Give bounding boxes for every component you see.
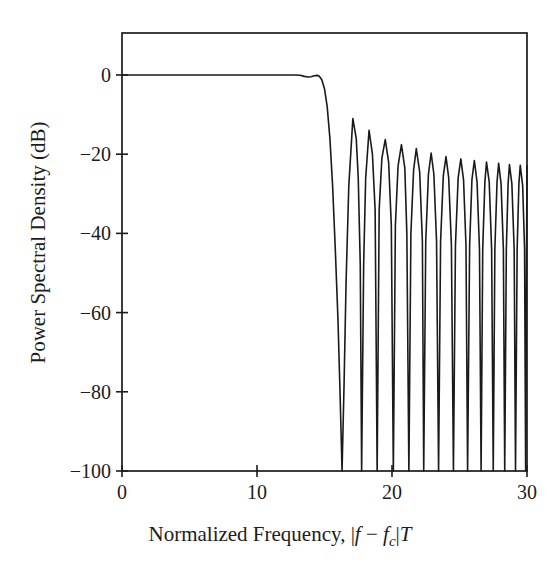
psd-figure: 0−20−40−60−80−100 0102030 Normalized Fre… (0, 0, 560, 566)
x-tick-label: 30 (517, 482, 537, 502)
x-axis-var-fc-subscript: c (389, 533, 396, 549)
data-series-group (122, 75, 527, 471)
y-tick-label: −20 (80, 144, 111, 164)
y-tick-label: −40 (80, 223, 111, 243)
x-tick-label: 10 (247, 482, 267, 502)
x-axis-title-text: Normalized Frequency, (148, 522, 350, 546)
x-tick-label: 0 (117, 482, 127, 502)
y-tick-label: −80 (80, 382, 111, 402)
x-tick-label: 20 (382, 482, 402, 502)
x-axis-minus: − (361, 522, 383, 546)
y-tick-label: −100 (70, 461, 111, 481)
psd-line-series (122, 75, 527, 471)
x-axis-var-T: T (400, 522, 412, 546)
y-axis-title: Power Spectral Density (dB) (26, 43, 51, 443)
y-axis-title-text: Power Spectral Density (dB) (26, 121, 50, 363)
y-tick-label: 0 (101, 65, 111, 85)
y-tick-label: −60 (80, 303, 111, 323)
x-axis-title: Normalized Frequency, |f − fc|T (0, 522, 560, 550)
